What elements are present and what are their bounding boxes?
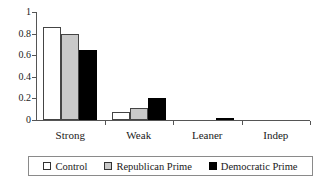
chart-legend: ControlRepublican PrimeDemocratic Prime	[28, 156, 313, 176]
legend-label: Control	[55, 160, 87, 173]
plot-area: 00.20.40.60.81 StrongWeakLeanerIndep	[36, 12, 310, 120]
category-label-leaner: Leaner	[173, 128, 242, 142]
y-tick-label: 0.6	[19, 48, 32, 61]
bar-weak-democratic-prime	[148, 98, 166, 120]
category-label-strong: Strong	[36, 128, 105, 142]
bar-chart-figure: 00.20.40.60.81 StrongWeakLeanerIndep Con…	[0, 0, 323, 186]
bar-strong-republican-prime	[61, 34, 79, 120]
category-label-weak: Weak	[105, 128, 174, 142]
y-tick-mark	[32, 77, 36, 78]
x-tick-mark	[242, 121, 243, 125]
y-tick-label: 0	[26, 113, 31, 126]
x-tick-mark	[310, 121, 311, 125]
legend-entry-democratic-prime: Democratic Prime	[209, 160, 298, 173]
y-tick-label: 0.2	[19, 91, 32, 104]
legend-entry-control: Control	[43, 160, 87, 173]
bar-strong-democratic-prime	[79, 50, 97, 120]
bar-leaner-democratic-prime	[216, 118, 234, 120]
y-tick-label: 1	[26, 5, 31, 18]
legend-label: Republican Prime	[116, 160, 192, 173]
gray-square-swatch	[104, 162, 112, 170]
y-tick-mark	[32, 34, 36, 35]
y-tick-label: 0.8	[19, 27, 32, 40]
bar-weak-control	[112, 112, 130, 120]
category-label-indep: Indep	[242, 128, 311, 142]
x-tick-mark	[105, 121, 106, 125]
bar-strong-control	[43, 27, 61, 120]
legend-entry-republican-prime: Republican Prime	[104, 160, 192, 173]
y-axis-line	[36, 12, 37, 120]
y-tick-label: 0.4	[19, 70, 32, 83]
white-square-swatch	[43, 162, 51, 170]
y-tick-mark	[32, 120, 36, 121]
bar-weak-republican-prime	[130, 108, 148, 120]
x-tick-mark	[173, 121, 174, 125]
y-tick-mark	[32, 98, 36, 99]
y-tick-mark	[32, 55, 36, 56]
y-tick-mark	[32, 12, 36, 13]
legend-label: Democratic Prime	[221, 160, 298, 173]
black-square-swatch	[209, 162, 217, 170]
